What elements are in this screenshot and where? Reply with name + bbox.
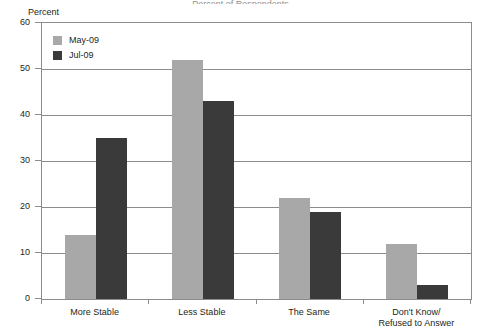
y-axis-tick-label: 60 xyxy=(0,18,30,27)
y-axis-tick-mark xyxy=(35,22,41,23)
x-axis-tick-mark xyxy=(256,299,257,304)
bar xyxy=(172,60,203,299)
bar xyxy=(96,138,127,299)
bar xyxy=(310,212,341,299)
x-axis-category-label: The Same xyxy=(256,307,363,318)
y-axis-tick-label: 20 xyxy=(0,202,30,211)
bar xyxy=(386,244,417,299)
chart-legend: May-09Jul-09 xyxy=(53,33,99,63)
x-axis-tick-mark xyxy=(41,299,42,304)
y-axis-tick-mark xyxy=(35,160,41,161)
y-axis-tick-mark xyxy=(35,252,41,253)
x-axis-tick-mark xyxy=(470,299,471,304)
bar xyxy=(203,101,234,299)
gridline xyxy=(42,115,471,116)
y-axis-tick-label: 10 xyxy=(0,248,30,257)
legend-item: Jul-09 xyxy=(53,48,99,63)
legend-item-label: Jul-09 xyxy=(69,51,94,60)
plot-area xyxy=(41,22,472,300)
gridline xyxy=(42,69,471,70)
y-axis-tick-label: 30 xyxy=(0,156,30,165)
y-axis-unit-label: Percent xyxy=(28,7,59,17)
y-axis-tick-mark xyxy=(35,114,41,115)
x-axis-tick-mark xyxy=(148,299,149,304)
legend-swatch-icon xyxy=(53,51,62,60)
x-axis-tick-mark xyxy=(363,299,364,304)
bar-chart: Percent of Respondents Percent 010203040… xyxy=(0,0,481,335)
y-axis-tick-mark xyxy=(35,68,41,69)
legend-item: May-09 xyxy=(53,33,99,48)
x-axis-category-label: More Stable xyxy=(41,307,148,318)
x-axis-category-label: Less Stable xyxy=(148,307,255,318)
chart-title-clipped: Percent of Respondents xyxy=(0,0,481,4)
bar xyxy=(279,198,310,299)
bar xyxy=(417,285,448,299)
x-axis-category-label: Don't Know/ Refused to Answer xyxy=(363,307,470,329)
y-axis-tick-mark xyxy=(35,206,41,207)
y-axis-tick-label: 40 xyxy=(0,110,30,119)
bar xyxy=(65,235,96,299)
y-axis-tick-label: 50 xyxy=(0,64,30,73)
y-axis-tick-label: 0 xyxy=(0,294,30,303)
legend-swatch-icon xyxy=(53,36,62,45)
legend-item-label: May-09 xyxy=(69,36,99,45)
